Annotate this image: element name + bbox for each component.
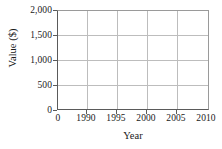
vertical-gridline (87, 11, 88, 109)
y-tick-label: 2,000 (30, 5, 52, 15)
x-tick-label: 2005 (166, 113, 185, 124)
y-tick-label: 1,500 (30, 30, 52, 40)
horizontal-gridline (58, 35, 208, 36)
x-axis-title: Year (57, 130, 209, 142)
y-axis-title: Value ($) (7, 3, 19, 93)
vertical-gridline (147, 11, 148, 109)
x-tick-label: 0 (56, 113, 61, 124)
vertical-gridline (117, 11, 118, 109)
vertical-gridline (177, 11, 178, 109)
chart-figure: Value ($) 2,000 1,500 1,000 500 0 0 1990… (0, 0, 222, 149)
horizontal-gridline (58, 85, 208, 86)
x-tick-label: 2000 (136, 113, 155, 124)
y-tick-label: 500 (37, 80, 52, 90)
x-tick-label: 1990 (76, 113, 95, 124)
horizontal-gridline (58, 60, 208, 61)
plot-area (57, 10, 209, 110)
x-tick-label: 2010 (196, 113, 215, 124)
x-tick-label: 1995 (106, 113, 125, 124)
y-tick-label: 1,000 (30, 55, 52, 65)
y-tick-mark (53, 110, 57, 111)
y-tick-label: 0 (47, 105, 52, 115)
